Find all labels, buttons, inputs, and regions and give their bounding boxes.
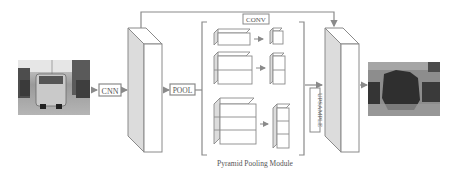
concat-feature-map-slab — [325, 28, 359, 152]
skip-connection-line — [141, 12, 334, 28]
cnn-box: CNN — [99, 84, 121, 96]
conv-box: CONV — [243, 14, 269, 24]
pool-box: POOL — [170, 84, 195, 95]
right-bracket — [299, 22, 304, 155]
left-bracket — [202, 22, 207, 155]
cnn-label: CNN — [102, 87, 119, 96]
pspnet-diagram: CNN POOL CONV — [0, 0, 458, 178]
feature-map-slab — [128, 28, 162, 152]
input-image — [18, 60, 90, 115]
pyramid-pooling-caption: Pyramid Pooling Module — [217, 159, 294, 168]
pyramid-level-3 — [214, 98, 290, 148]
pool-label: POOL — [173, 86, 193, 95]
upsample-label: UPSAMPLE — [317, 93, 324, 127]
conv-label: CONV — [246, 16, 266, 24]
upsample-box: UPSAMPLE — [310, 88, 324, 132]
pyramid-level-1 — [214, 28, 283, 45]
pyramid-level-2 — [214, 52, 285, 84]
output-image — [368, 62, 440, 116]
